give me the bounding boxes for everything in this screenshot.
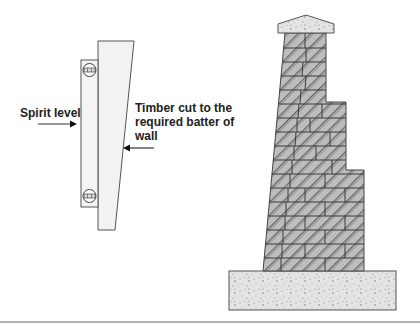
spirit-level-label: Spirit level [20, 106, 81, 120]
timber-arrow-icon [123, 145, 154, 152]
concrete-foundation [229, 271, 396, 310]
spirit-level [81, 60, 98, 207]
bubble-vial-top-icon [83, 64, 96, 77]
spirit-level-arrow-icon [38, 121, 77, 128]
timber-label-line-2: required batter of [135, 115, 234, 129]
bubble-vial-bottom-icon [83, 190, 96, 203]
coping-stone [278, 15, 334, 33]
batter-timber [98, 41, 134, 230]
batter-diagram [0, 0, 420, 329]
timber-label-line-1: Timber cut to the [135, 101, 232, 115]
battered-brick-wall [263, 33, 364, 271]
timber-label-line-3: wall [135, 129, 158, 143]
